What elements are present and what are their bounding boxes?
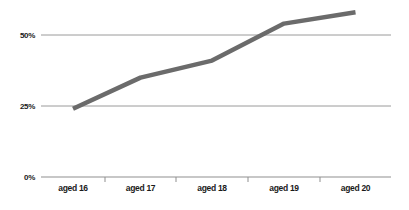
x-tick-label: aged 19 (269, 183, 299, 193)
x-tick-label: aged 16 (58, 183, 88, 193)
x-tick-label: aged 18 (197, 183, 227, 193)
line-chart-figure: 0%25%50%aged 16aged 17aged 18aged 19aged… (0, 0, 409, 210)
line-chart: 0%25%50%aged 16aged 17aged 18aged 19aged… (0, 0, 409, 210)
x-tick-label: aged 20 (341, 183, 371, 193)
data-line (73, 12, 356, 109)
y-tick-label: 50% (20, 31, 35, 40)
y-tick-label: 25% (20, 102, 35, 111)
y-tick-label: 0% (24, 173, 35, 182)
x-tick-label: aged 17 (126, 183, 156, 193)
